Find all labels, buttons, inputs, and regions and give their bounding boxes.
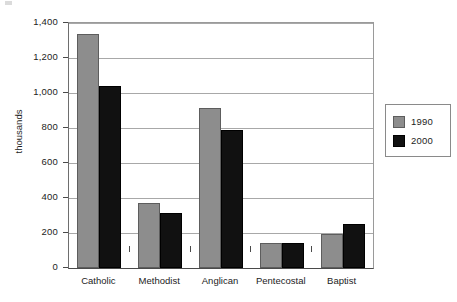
legend-item-2000[interactable]: 2000 <box>393 131 450 150</box>
x-category-label-pentecostal: Pentecostal <box>256 275 306 286</box>
y-tick-label-0: 0 <box>0 261 58 272</box>
bar-methodist-2000 <box>160 213 182 268</box>
legend-item-1990[interactable]: 1990 <box>393 112 450 131</box>
chart-legend: 1990 2000 <box>385 104 451 157</box>
y-tick-label-200: 200 <box>0 226 58 237</box>
gridline-1200 <box>69 58 373 59</box>
x-category-label-anglican: Anglican <box>202 275 238 286</box>
y-axis-labels-group: thousands 02004006008001,0001,2001,400 <box>0 0 64 302</box>
legend-label-1990: 1990 <box>411 116 433 127</box>
bar-baptist-2000 <box>343 224 365 268</box>
bar-anglican-2000 <box>221 130 243 268</box>
y-tick-label-1400: 1,400 <box>0 16 58 27</box>
y-tick-label-800: 800 <box>0 121 58 132</box>
legend-swatch-icon-1990 <box>393 116 405 128</box>
bar-pentecostal-2000 <box>282 243 304 268</box>
bar-catholic-1990 <box>77 34 99 268</box>
bar-baptist-1990 <box>321 234 343 268</box>
y-tick-label-400: 400 <box>0 191 58 202</box>
y-tick-label-600: 600 <box>0 156 58 167</box>
x-category-label-baptist: Baptist <box>327 275 356 286</box>
bar-methodist-1990 <box>138 203 160 268</box>
y-tick-label-1000: 1,000 <box>0 86 58 97</box>
legend-swatch-icon-2000 <box>393 135 405 147</box>
x-tick-mark-3 <box>250 246 251 252</box>
bar-anglican-1990 <box>199 108 221 268</box>
bar-pentecostal-1990 <box>260 243 282 268</box>
bar-chart-figure: thousands 02004006008001,0001,2001,400 1… <box>0 0 457 302</box>
bar-catholic-2000 <box>99 86 121 268</box>
x-category-label-catholic: Catholic <box>81 275 115 286</box>
x-tick-mark-2 <box>190 246 191 252</box>
legend-label-2000: 2000 <box>411 135 433 146</box>
plot-area <box>68 22 374 269</box>
y-tick-label-1200: 1,200 <box>0 51 58 62</box>
x-tick-mark-1 <box>129 246 130 252</box>
x-category-label-methodist: Methodist <box>139 275 180 286</box>
x-tick-mark-4 <box>311 246 312 252</box>
gridline-1400 <box>69 23 373 24</box>
